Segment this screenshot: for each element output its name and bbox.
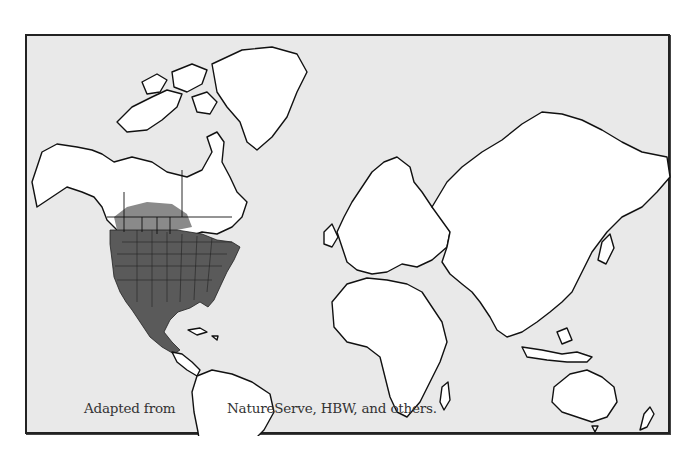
- australia: [552, 370, 617, 422]
- world-map: [27, 36, 672, 436]
- map-frame: Adapted from NatureServe, HBW, and other…: [25, 34, 670, 434]
- europe: [337, 157, 450, 274]
- caption-left: Adapted from: [84, 400, 175, 416]
- greenland: [212, 47, 307, 150]
- asia: [432, 112, 670, 337]
- caption-right: NatureServe, HBW, and others.: [227, 400, 437, 416]
- africa: [332, 278, 447, 417]
- species-range-north-america: [110, 230, 240, 354]
